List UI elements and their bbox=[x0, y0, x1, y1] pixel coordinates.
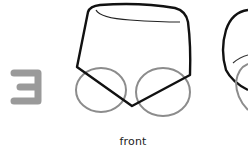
front-view-label: front bbox=[103, 135, 163, 149]
right-guide-circle bbox=[136, 68, 190, 116]
top-rim-curve bbox=[96, 10, 180, 22]
front-view-sketch bbox=[0, 0, 248, 156]
side-view-inner-curve bbox=[233, 55, 248, 63]
left-guide-circle bbox=[76, 68, 126, 112]
body-outline bbox=[77, 4, 190, 106]
side-view-outline bbox=[223, 10, 248, 90]
drawing-tutorial-step: front bbox=[0, 0, 248, 156]
